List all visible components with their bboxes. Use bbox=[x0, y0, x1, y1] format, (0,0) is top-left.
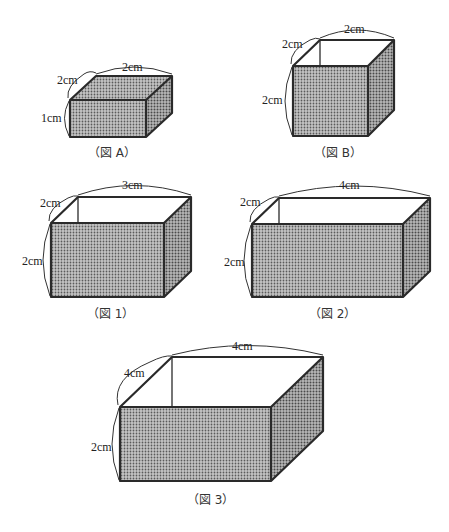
figure-3-height-label: 2cm bbox=[91, 440, 112, 454]
figure-2: 4cm 2cm 2cm （図 2） bbox=[224, 178, 430, 321]
figure-2-caption: （図 2） bbox=[309, 307, 356, 321]
figure-a-caption: （図 A） bbox=[88, 146, 136, 160]
figure-a-depth-label: 2cm bbox=[57, 73, 78, 87]
figure-a: 2cm 2cm 1cm （図 A） bbox=[41, 60, 172, 160]
figure-a-height-label: 1cm bbox=[41, 111, 62, 125]
figure-b: 2cm 2cm 2cm （図 B） bbox=[262, 22, 394, 160]
figure-a-front-face bbox=[70, 100, 146, 137]
figure-1-depth-label: 2cm bbox=[40, 196, 61, 210]
figure-3-width-label: 4cm bbox=[232, 339, 253, 353]
figure-2-width-label: 4cm bbox=[339, 178, 360, 192]
figure-2-height-label: 2cm bbox=[224, 255, 245, 269]
figure-b-height-label: 2cm bbox=[262, 93, 283, 107]
figure-3-caption: （図 3） bbox=[187, 493, 234, 507]
figure-1-caption: （図 1） bbox=[87, 307, 134, 321]
figure-3: 4cm 4cm 2cm （図 3） bbox=[91, 339, 323, 507]
figure-b-caption: （図 B） bbox=[314, 146, 362, 160]
figure-a-width-label: 2cm bbox=[122, 60, 143, 74]
figure-2-front-face bbox=[252, 224, 403, 297]
figure-b-width-label: 2cm bbox=[344, 22, 365, 36]
figure-b-depth-label: 2cm bbox=[282, 37, 303, 51]
figure-2-depth-label: 2cm bbox=[240, 195, 261, 209]
figure-3-front-face bbox=[120, 407, 271, 481]
figure-b-front-face bbox=[293, 66, 368, 136]
figure-1: 3cm 2cm 2cm （図 1） bbox=[22, 178, 191, 321]
figure-1-width-label: 3cm bbox=[122, 178, 143, 192]
diagram-canvas: 2cm 2cm 1cm （図 A） 2cm 2cm 2cm （図 B） 3cm … bbox=[0, 0, 449, 532]
figure-1-side-face bbox=[164, 197, 191, 297]
figure-2-side-face bbox=[403, 198, 430, 297]
figure-1-height-label: 2cm bbox=[22, 254, 43, 268]
figure-3-side-face bbox=[271, 357, 323, 481]
figure-1-front-face bbox=[51, 223, 164, 297]
figure-3-depth-label: 4cm bbox=[124, 366, 145, 380]
